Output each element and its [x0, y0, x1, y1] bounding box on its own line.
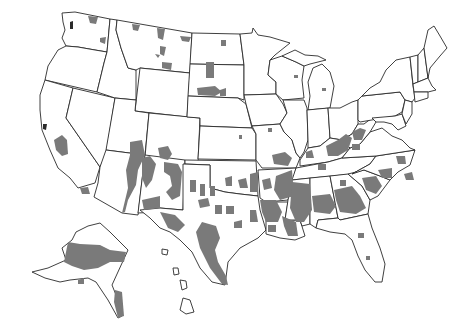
highlighted-county [221, 40, 226, 46]
highlighted-county [80, 187, 90, 194]
highlighted-county [190, 180, 196, 192]
state-north-dakota [190, 33, 244, 65]
highlighted-county [318, 164, 326, 170]
highlighted-county [340, 180, 346, 186]
state-michigan-lower [308, 64, 334, 110]
state-kansas [198, 126, 256, 160]
state-colorado [145, 113, 200, 162]
highlighted-county [226, 206, 234, 214]
state-hawaii [162, 249, 194, 314]
highlighted-county [404, 172, 414, 180]
state-montana [116, 20, 192, 73]
state-wyoming [135, 68, 190, 117]
highlighted-county [294, 75, 298, 78]
highlighted-county [352, 144, 360, 150]
state-connecticut [414, 92, 428, 102]
highlighted-county [215, 205, 222, 214]
highlighted-county [206, 62, 214, 78]
highlighted-county [210, 186, 215, 196]
highlighted-county [358, 233, 364, 238]
state-iowa [244, 94, 287, 126]
state-maine [424, 26, 447, 78]
highlighted-county [239, 135, 242, 139]
highlighted-county [268, 225, 276, 232]
highlighted-county [250, 172, 258, 192]
state-florida [316, 214, 385, 282]
highlighted-county [268, 128, 272, 132]
states-layer [32, 12, 447, 318]
highlighted-county [366, 256, 370, 260]
state-alaska [32, 223, 128, 318]
puget-sound [70, 21, 73, 29]
us-county-map [0, 0, 452, 329]
highlighted-county [200, 184, 205, 196]
highlighted-county [322, 88, 326, 91]
